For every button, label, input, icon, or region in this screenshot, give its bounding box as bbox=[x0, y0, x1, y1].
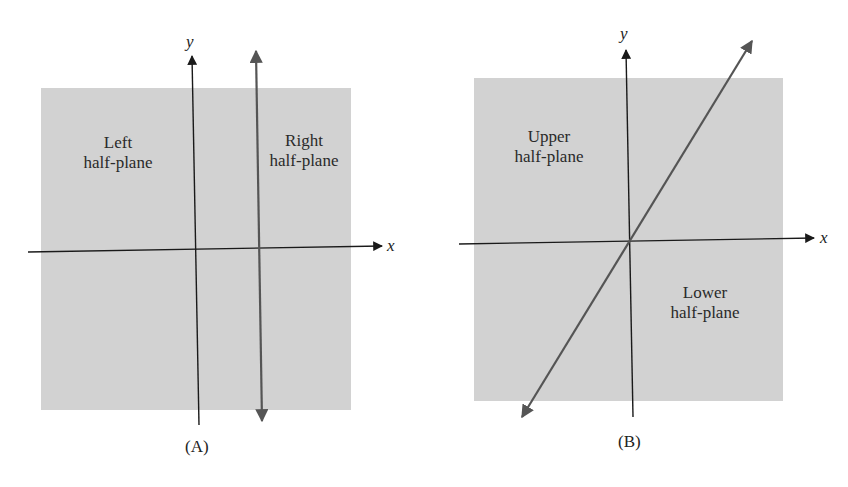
half-planes-diagram bbox=[0, 0, 848, 487]
panel-b bbox=[459, 41, 814, 417]
panel-b-y-label: y bbox=[620, 24, 628, 44]
panel-a-caption: (A) bbox=[185, 437, 209, 457]
upper-half-plane-label: Upper half-plane bbox=[503, 127, 595, 167]
panel-b-x-label: x bbox=[820, 228, 828, 248]
panel-b-caption: (B) bbox=[618, 432, 641, 452]
panel-a bbox=[28, 51, 382, 425]
left-half-plane-label: Left half-plane bbox=[72, 133, 164, 173]
right-half-plane-label: Right half-plane bbox=[258, 131, 350, 171]
panel-a-x-label: x bbox=[387, 236, 395, 256]
panel-a-y-label: y bbox=[186, 32, 194, 52]
lower-half-plane-label: Lower half-plane bbox=[659, 283, 751, 323]
